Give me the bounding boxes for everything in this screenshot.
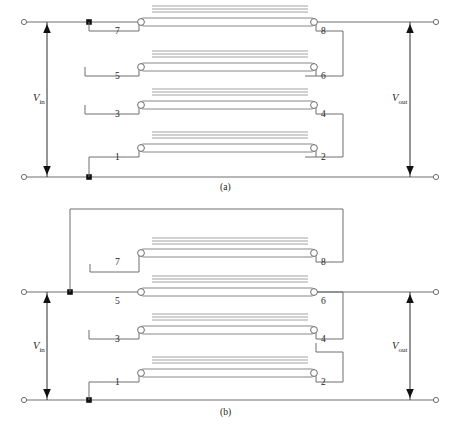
resonator-bar-1-2 bbox=[139, 369, 316, 377]
panel-a-node-label-5: 5 bbox=[115, 72, 120, 82]
panel-a-input-terminal-bottom bbox=[21, 174, 26, 179]
panel-a-node-label-8: 8 bbox=[321, 27, 326, 37]
panel-a-resonator-7-8 bbox=[138, 6, 318, 26]
panel-b-node-label-6: 6 bbox=[321, 297, 326, 307]
resonator-port-4 bbox=[311, 327, 318, 334]
panel-a-input-terminal-top bbox=[21, 19, 26, 24]
panel-a-resonator-1-2 bbox=[138, 132, 318, 152]
panel-b-vin-arrowhead-down bbox=[43, 389, 51, 398]
resonator-bar-7-8 bbox=[139, 18, 316, 26]
panel-b-resonator-3-4 bbox=[138, 314, 318, 334]
resonator-port-1 bbox=[138, 145, 145, 152]
panel-b-resonator-7-8 bbox=[138, 238, 318, 257]
panel-a-vout-subscript: out bbox=[398, 98, 407, 106]
panel-a-output-terminal-top bbox=[433, 19, 438, 24]
panel-a-node-label-2: 2 bbox=[321, 153, 326, 163]
panel-b-node-label-3: 3 bbox=[115, 335, 120, 345]
panel-b-graphics bbox=[21, 209, 438, 403]
resonator-port-8 bbox=[311, 19, 318, 26]
panel-b-vout-arrowhead-down bbox=[406, 389, 414, 398]
panel-a-node-label-3: 3 bbox=[115, 110, 120, 120]
panel-a-wire-node-to-7 bbox=[89, 22, 139, 31]
panel-a-vout-label: Vout bbox=[392, 92, 407, 106]
panel-b-resonator-1-2 bbox=[138, 357, 318, 377]
resonator-port-4 bbox=[311, 102, 318, 109]
resonator-port-6 bbox=[311, 64, 318, 71]
panel-b-node-label-5: 5 bbox=[115, 297, 120, 307]
panel-b-node-label-2: 2 bbox=[321, 378, 326, 388]
panel-a-node-label-1: 1 bbox=[115, 153, 120, 163]
resonator-bar-7-8 bbox=[139, 249, 316, 257]
resonator-bar-1-2 bbox=[139, 144, 316, 152]
panel-b-vin-arrowhead-up bbox=[43, 294, 51, 303]
panel-a-node-label-6: 6 bbox=[321, 72, 326, 82]
panel-a-resonator-3-4 bbox=[138, 89, 318, 109]
panel-b-wire-node-to-1 bbox=[89, 382, 139, 400]
panel-b-node-label-7: 7 bbox=[115, 258, 120, 268]
resonator-port-5 bbox=[138, 289, 145, 296]
panel-b-vin-subscript: in bbox=[39, 346, 44, 354]
resonator-port-5 bbox=[138, 64, 145, 71]
panel-a-vin-label: Vin bbox=[33, 92, 45, 106]
resonator-port-6 bbox=[311, 289, 318, 296]
figure-root: 7 8 5 6 3 4 1 2 Vin Vout (a) 7 8 5 6 3 4… bbox=[0, 0, 458, 434]
resonator-port-3 bbox=[138, 102, 145, 109]
resonator-bar-5-6 bbox=[139, 63, 316, 71]
resonator-bar-3-4 bbox=[139, 326, 316, 334]
panel-a-wire-5-stub bbox=[85, 67, 139, 76]
panel-a-caption: (a) bbox=[220, 183, 231, 193]
panel-b-vout-label: Vout bbox=[392, 340, 407, 354]
resonator-bar-3-4 bbox=[139, 101, 316, 109]
panel-a-wire-3-stub bbox=[85, 105, 139, 114]
panel-a-wire-node-to-1 bbox=[89, 157, 139, 177]
panel-a-node-label-4: 4 bbox=[321, 110, 326, 120]
panel-b-vout-arrowhead-up bbox=[406, 294, 414, 303]
panel-b-wire-3-stub bbox=[89, 330, 139, 339]
panel-b-resonator-5-6 bbox=[138, 276, 318, 296]
resonator-port-8 bbox=[311, 250, 318, 257]
resonator-port-3 bbox=[138, 327, 145, 334]
panel-b-node-label-1: 1 bbox=[115, 378, 120, 388]
panel-a-graphics bbox=[21, 6, 438, 180]
panel-a-node-label-7: 7 bbox=[115, 27, 120, 37]
resonator-port-7 bbox=[138, 19, 145, 26]
schematic-svg bbox=[0, 0, 458, 434]
panel-a-vin-arrowhead-down bbox=[43, 166, 51, 175]
panel-b-output-terminal-bottom bbox=[433, 397, 438, 402]
resonator-port-2 bbox=[311, 370, 318, 377]
panel-a-vin-subscript: in bbox=[39, 98, 44, 106]
panel-a-vout-arrowhead-down bbox=[406, 166, 414, 175]
panel-b-node-label-4: 4 bbox=[321, 335, 326, 345]
panel-a-vout-arrowhead-up bbox=[406, 24, 414, 33]
panel-b-input-terminal-top bbox=[21, 289, 26, 294]
resonator-port-1 bbox=[138, 370, 145, 377]
panel-b-output-terminal-top bbox=[433, 289, 438, 294]
panel-b-caption: (b) bbox=[220, 408, 231, 418]
panel-b-vin-label: Vin bbox=[33, 340, 45, 354]
resonator-port-7 bbox=[138, 250, 145, 257]
panel-a-vin-arrowhead-up bbox=[43, 24, 51, 33]
panel-b-node-label-8: 8 bbox=[321, 258, 326, 268]
resonator-bar-5-6 bbox=[139, 288, 316, 296]
panel-a-resonator-5-6 bbox=[138, 51, 318, 71]
panel-b-vout-subscript: out bbox=[398, 346, 407, 354]
panel-a-output-terminal-bottom bbox=[433, 174, 438, 179]
panel-b-input-terminal-bottom bbox=[21, 397, 26, 402]
resonator-port-2 bbox=[311, 145, 318, 152]
